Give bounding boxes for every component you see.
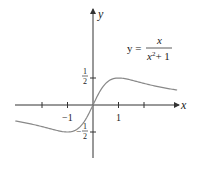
svg-text:1: 1 (83, 67, 87, 76)
svg-text:x2+ 1: x2+ 1 (146, 50, 170, 62)
plot-area: x y −1 1 1 2 − 1 2 y = x x2+ 1 (0, 0, 197, 172)
x-axis-label: x (180, 98, 187, 112)
chart-root: x y −1 1 1 2 − 1 2 y = x x2+ 1 (0, 0, 197, 172)
svg-text:2: 2 (83, 132, 87, 141)
svg-text:x: x (156, 34, 162, 46)
svg-text:y =: y = (127, 42, 141, 54)
x-tick-label-1: 1 (116, 112, 121, 123)
x-tick-label-neg1: −1 (62, 112, 73, 123)
svg-text:−: − (76, 126, 81, 136)
y-axis-label: y (97, 7, 104, 21)
equation-label: y = x x2+ 1 (127, 34, 172, 62)
y-tick-label-half: 1 2 (82, 67, 88, 86)
svg-text:2: 2 (83, 77, 87, 86)
svg-text:1: 1 (83, 122, 87, 131)
